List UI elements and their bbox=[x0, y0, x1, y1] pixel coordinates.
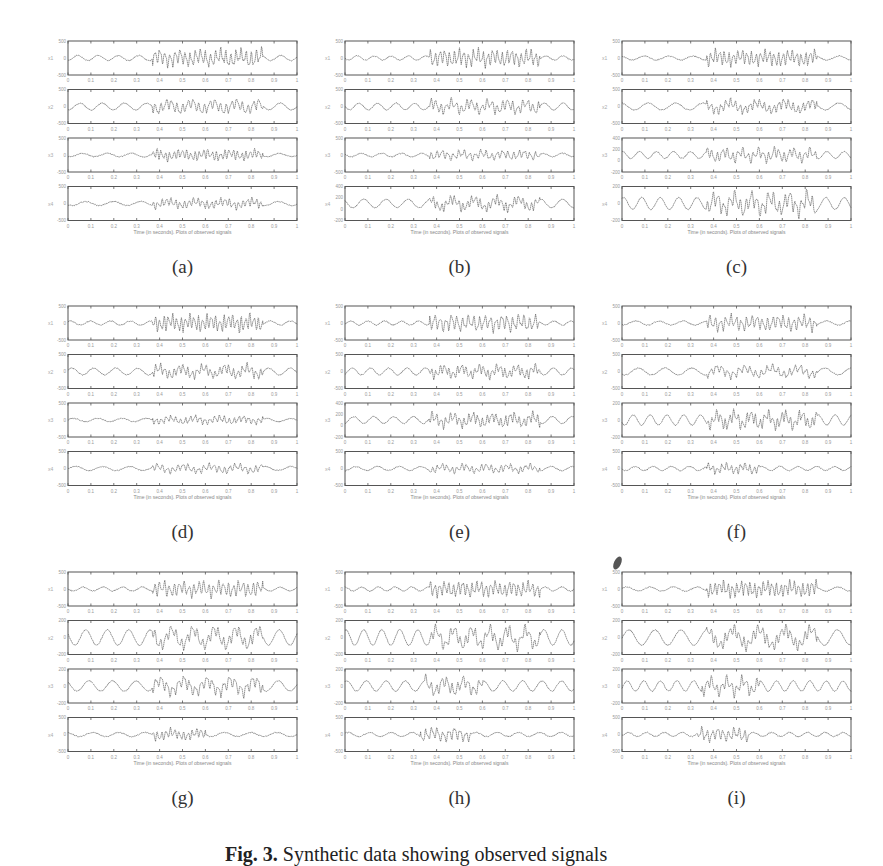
x-tick-label: 0.2 bbox=[111, 440, 118, 445]
x-tick-label: 0.1 bbox=[88, 224, 95, 229]
x-tick-label: 0.5 bbox=[733, 343, 740, 348]
y-axis-label: x1 bbox=[602, 55, 608, 61]
x-tick-label: 1 bbox=[850, 127, 853, 132]
y-tick-label: -500 bbox=[611, 338, 621, 343]
y-tick-label: 0 bbox=[63, 684, 66, 689]
signal-plot-c: 00.10.20.30.40.50.60.70.80.915000-500x10… bbox=[594, 38, 864, 243]
subplot-x3: 00.10.20.30.40.50.60.70.80.912000-200x3 bbox=[325, 667, 576, 712]
x-tick-label: 0.1 bbox=[365, 224, 372, 229]
signal-trace bbox=[622, 726, 851, 743]
x-tick-label: 0.9 bbox=[825, 224, 832, 229]
x-tick-label: 0.2 bbox=[388, 489, 395, 494]
subplot-x2: 00.10.20.30.40.50.60.70.80.912000-200x2 bbox=[325, 618, 576, 663]
x-tick-label: 0.8 bbox=[248, 78, 255, 83]
y-tick-label: 0 bbox=[340, 635, 343, 640]
x-tick-label: 0.9 bbox=[548, 609, 555, 614]
x-tick-label: 0.4 bbox=[156, 78, 163, 83]
y-axis-label: x3 bbox=[48, 417, 54, 423]
x-tick-label: 1 bbox=[573, 78, 576, 83]
x-axis-label: Time (in seconds). Plots of observed sig… bbox=[134, 494, 232, 500]
x-tick-label: 0.9 bbox=[548, 706, 555, 711]
x-tick-label: 0.6 bbox=[479, 392, 486, 397]
x-tick-label: 0.1 bbox=[88, 175, 95, 180]
y-tick-label: 0 bbox=[340, 153, 343, 158]
x-tick-label: 0.4 bbox=[433, 706, 440, 711]
x-tick-label: 0.1 bbox=[642, 609, 649, 614]
x-tick-label: 0.4 bbox=[433, 392, 440, 397]
x-tick-label: 1 bbox=[573, 175, 576, 180]
signal-trace bbox=[345, 463, 574, 474]
x-tick-label: 0.4 bbox=[156, 706, 163, 711]
signal-plot-a: 00.10.20.30.40.50.60.70.80.915000-500x10… bbox=[40, 38, 310, 243]
y-axis-label: x1 bbox=[48, 320, 54, 326]
x-tick-label: 0.5 bbox=[179, 343, 186, 348]
x-tick-label: 0.2 bbox=[665, 127, 672, 132]
x-tick-label: 0.6 bbox=[479, 440, 486, 445]
y-tick-label: 500 bbox=[58, 715, 66, 720]
y-tick-label: 0 bbox=[340, 732, 343, 737]
subplot-x2: 00.10.20.30.40.50.60.70.80.915000-500x2 bbox=[325, 87, 576, 132]
x-tick-label: 0.2 bbox=[665, 440, 672, 445]
signal-trace bbox=[345, 363, 574, 380]
x-tick-label: 1 bbox=[573, 127, 576, 132]
signal-trace bbox=[68, 47, 297, 69]
x-tick-label: 0.9 bbox=[825, 127, 832, 132]
signal-trace bbox=[68, 197, 297, 210]
x-tick-label: 0.8 bbox=[248, 175, 255, 180]
y-tick-label: 200 bbox=[612, 147, 620, 152]
x-tick-label: 0.3 bbox=[688, 127, 695, 132]
x-tick-label: 0.5 bbox=[179, 658, 186, 663]
x-tick-label: 1 bbox=[296, 343, 299, 348]
signal-plot-g: 00.10.20.30.40.50.60.70.80.915000-500x10… bbox=[40, 569, 310, 774]
x-tick-label: 0.9 bbox=[271, 609, 278, 614]
x-tick-label: 0.1 bbox=[365, 440, 372, 445]
y-tick-label: 0 bbox=[617, 158, 620, 163]
x-tick-label: 0 bbox=[344, 489, 347, 494]
x-tick-label: 0.9 bbox=[548, 392, 555, 397]
subplot-x4: 00.10.20.30.40.50.60.70.80.912000-200x4 bbox=[602, 184, 853, 229]
x-tick-label: 0 bbox=[344, 440, 347, 445]
figure-panel-f: 00.10.20.30.40.50.60.70.80.915000-500x10… bbox=[594, 303, 864, 513]
x-tick-label: 0.6 bbox=[756, 440, 763, 445]
x-tick-label: 0 bbox=[344, 392, 347, 397]
y-axis-label: x2 bbox=[602, 635, 608, 641]
x-tick-label: 1 bbox=[850, 343, 853, 348]
x-tick-label: 0.6 bbox=[202, 392, 209, 397]
panel-label: (g) bbox=[153, 787, 213, 809]
x-tick-label: 1 bbox=[296, 78, 299, 83]
x-tick-label: 0.1 bbox=[365, 392, 372, 397]
x-tick-label: 1 bbox=[850, 392, 853, 397]
x-tick-label: 0.5 bbox=[179, 127, 186, 132]
x-tick-label: 0.4 bbox=[156, 127, 163, 132]
y-tick-label: 200 bbox=[335, 618, 343, 623]
signal-trace bbox=[345, 411, 574, 430]
x-tick-label: 0.7 bbox=[502, 440, 509, 445]
x-tick-label: 0 bbox=[621, 343, 624, 348]
x-tick-label: 0 bbox=[67, 175, 70, 180]
y-tick-label: 0 bbox=[340, 207, 343, 212]
y-axis-label: x4 bbox=[325, 732, 331, 738]
x-tick-label: 0.1 bbox=[88, 392, 95, 397]
figure-caption: Fig. 3. Synthetic data showing observed … bbox=[225, 843, 607, 866]
x-tick-label: 0 bbox=[344, 609, 347, 614]
panel-label: (b) bbox=[430, 256, 490, 278]
panel-label: (d) bbox=[153, 521, 213, 543]
x-tick-label: 0.9 bbox=[271, 755, 278, 760]
y-tick-label: 0 bbox=[340, 684, 343, 689]
y-tick-label: -500 bbox=[334, 338, 344, 343]
x-tick-label: 0.3 bbox=[688, 78, 695, 83]
x-tick-label: 0.3 bbox=[411, 127, 418, 132]
x-tick-label: 0.1 bbox=[88, 127, 95, 132]
x-tick-label: 0.8 bbox=[802, 127, 809, 132]
y-tick-label: 500 bbox=[58, 304, 66, 309]
y-tick-label: 500 bbox=[58, 449, 66, 454]
y-tick-label: 0 bbox=[340, 423, 343, 428]
x-tick-label: 0.2 bbox=[388, 440, 395, 445]
x-tick-label: 0.4 bbox=[156, 175, 163, 180]
y-axis-label: x3 bbox=[48, 152, 54, 158]
x-tick-label: 0.3 bbox=[134, 658, 141, 663]
y-tick-label: 400 bbox=[612, 136, 620, 141]
y-tick-label: -200 bbox=[611, 435, 621, 440]
y-axis-label: x1 bbox=[325, 55, 331, 61]
y-tick-label: 0 bbox=[63, 201, 66, 206]
